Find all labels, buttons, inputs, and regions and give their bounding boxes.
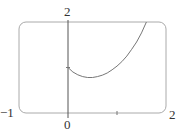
- function-curve: [68, 22, 146, 78]
- viewing-window-frame: [19, 22, 166, 113]
- x-min-label: −1: [0, 106, 14, 119]
- y-max-label: 2: [64, 5, 71, 18]
- x-origin-label: 0: [64, 118, 71, 131]
- chart-canvas: [0, 0, 180, 135]
- x-max-label: 2: [169, 108, 176, 121]
